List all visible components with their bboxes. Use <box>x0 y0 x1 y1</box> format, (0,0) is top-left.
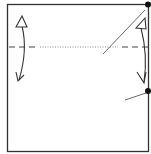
paper-square <box>8 5 149 152</box>
reference-point-top-icon <box>145 2 151 8</box>
reference-point-middle-icon <box>145 88 151 94</box>
origami-diagram <box>0 0 151 154</box>
